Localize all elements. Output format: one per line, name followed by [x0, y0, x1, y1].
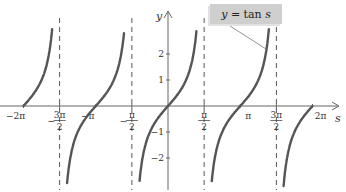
x-tick-label: π [129, 110, 135, 120]
x-tick-label: 2π [315, 111, 327, 121]
x-tick-label: 2 [129, 122, 135, 132]
tangent-plot: s y −2π−3π2−π−π2π2π3π22π21−1−2 [0, 0, 346, 192]
x-tick-label: − [120, 116, 128, 126]
legend-eq: = tan [227, 8, 265, 21]
x-tick-label: 3π [54, 110, 66, 120]
legend-var: s [265, 8, 271, 21]
y-axis-name: y [155, 10, 163, 23]
x-tick-label: π [245, 111, 251, 121]
tan-branch [24, 29, 53, 106]
y-tick-label: 2 [158, 49, 164, 59]
tan-branch [67, 33, 124, 183]
x-tick-label: π [201, 110, 207, 120]
tan-branch [212, 29, 269, 181]
y-tick-label: 1 [158, 75, 164, 85]
x-tick-label: 2 [57, 122, 63, 132]
y-tick-label: −2 [151, 153, 164, 163]
tan-branch [284, 106, 313, 186]
x-axis-name: s [335, 112, 341, 125]
x-tick-label: 2 [274, 122, 280, 132]
legend-leader-line [230, 26, 266, 49]
function-label-callout: y = tan s [210, 4, 282, 24]
x-tick-label: 3π [271, 110, 283, 120]
x-tick-label: 2 [201, 122, 207, 132]
x-tick-label: −2π [6, 111, 25, 121]
